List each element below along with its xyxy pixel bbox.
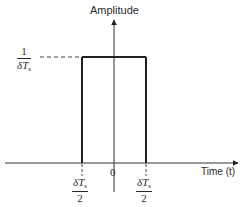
right-edge-denominator: 2	[141, 192, 147, 204]
left-edge-denominator: 2	[77, 192, 83, 204]
y-axis-label: Amplitude	[90, 5, 139, 16]
amplitude-numerator: 1	[20, 46, 28, 58]
right-edge-label: δTs 2	[136, 177, 152, 204]
amplitude-label: 1 δTs	[17, 46, 31, 73]
right-edge-numerator: δTs	[136, 177, 152, 191]
origin-label: 0	[110, 167, 116, 178]
left-edge-numerator: δTs	[72, 177, 88, 191]
x-axis-label: Time (t)	[201, 167, 235, 177]
left-edge-label: δTs 2	[72, 177, 88, 204]
amplitude-denominator: δTs	[17, 59, 31, 73]
